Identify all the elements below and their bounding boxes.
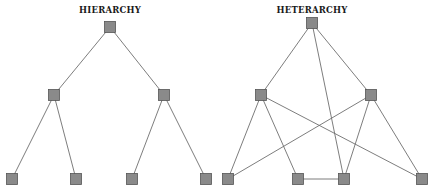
edge-x-mid-left-x-bot-2	[261, 95, 298, 179]
node-x-mid-right	[366, 90, 377, 101]
node-x-mid-left	[256, 90, 267, 101]
edge-h-l2-left-h-leaf-1	[12, 95, 54, 179]
hierarchy-nodes	[7, 22, 212, 185]
node-x-bot-1	[223, 174, 234, 185]
edge-x-mid-right-x-bot-1	[228, 95, 371, 179]
node-h-l2-left	[49, 90, 60, 101]
node-x-top	[307, 18, 318, 29]
edge-x-top-x-mid-left	[261, 23, 312, 95]
edge-h-l2-right-h-leaf-3	[132, 95, 164, 179]
heterarchy-nodes	[223, 18, 428, 185]
node-h-leaf-2	[71, 174, 82, 185]
node-h-l2-right	[159, 90, 170, 101]
hierarchy-diagram: HIERARCHY	[7, 5, 212, 185]
edge-x-mid-left-x-bot-1	[228, 95, 261, 179]
edge-h-root-h-l2-right	[110, 27, 164, 95]
edge-h-root-h-l2-left	[54, 27, 110, 95]
hierarchy-title: HIERARCHY	[79, 5, 142, 15]
node-h-leaf-3	[127, 174, 138, 185]
hierarchy-edges	[12, 27, 206, 179]
edge-x-mid-right-x-bot-3	[344, 95, 371, 179]
edge-x-top-x-mid-right	[312, 23, 371, 95]
node-h-leaf-4	[201, 174, 212, 185]
node-x-bot-3	[339, 174, 350, 185]
node-h-leaf-1	[7, 174, 18, 185]
node-h-root	[105, 22, 116, 33]
diagram-canvas: HIERARCHY HETERARCHY	[0, 0, 432, 188]
heterarchy-diagram: HETERARCHY	[223, 5, 428, 185]
edge-h-l2-right-h-leaf-4	[164, 95, 206, 179]
edge-x-mid-right-x-bot-4	[371, 95, 422, 179]
heterarchy-title: HETERARCHY	[277, 5, 349, 15]
node-x-bot-4	[417, 174, 428, 185]
edge-x-top-x-bot-3	[312, 23, 344, 179]
heterarchy-edges	[228, 23, 422, 179]
node-x-bot-2	[293, 174, 304, 185]
edge-h-l2-left-h-leaf-2	[54, 95, 76, 179]
